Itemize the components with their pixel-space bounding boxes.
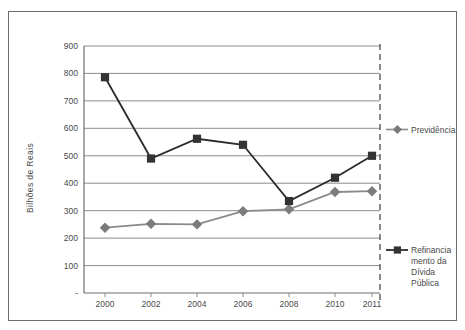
x-tick-label-2006: 2006 [234, 299, 253, 309]
legend: Previdência Refinancia mento da Dívida P… [386, 125, 456, 289]
y-tick-label-200: 200 [64, 233, 78, 243]
x-tick-label-2002: 2002 [142, 299, 161, 309]
legend-item-previdencia[interactable]: Previdência [386, 125, 456, 135]
legend-label-refinanciamento-line-1: Refinancia [411, 245, 451, 255]
legend-label-previdencia: Previdência [411, 125, 456, 135]
x-tick-label-2010: 2010 [326, 299, 345, 309]
series-markers-previdencia [100, 186, 377, 233]
y-tick-label-500: 500 [64, 151, 78, 161]
legend-marker-refinanciamento-square [394, 246, 401, 253]
y-tick-label-600: 600 [64, 123, 78, 133]
chart-plot-area: Bilhões de Reais 900 800 700 600 500 400… [0, 0, 465, 330]
x-tick-label-2004: 2004 [188, 299, 207, 309]
data-point-2002 [147, 154, 155, 162]
y-tick-label-100: 100 [64, 261, 78, 271]
data-point-2000 [100, 222, 110, 232]
data-point-2008 [285, 197, 293, 205]
data-point-2008 [284, 204, 294, 214]
data-point-2010 [331, 174, 339, 182]
series-line-refinanciamento [105, 77, 372, 201]
x-tick-label-2011: 2011 [363, 299, 382, 309]
y-tick-label-300: 300 [64, 206, 78, 216]
series-line-previdencia [105, 191, 372, 228]
y-tick-label-900: 900 [64, 41, 78, 51]
data-point-2011 [367, 186, 377, 196]
data-point-2011 [368, 152, 376, 160]
legend-marker-previdencia-diamond [393, 125, 402, 134]
y-tick-label-0: - [75, 288, 78, 298]
data-point-2004 [192, 219, 202, 229]
gridlines [84, 46, 380, 266]
series-markers-refinanciamento [101, 73, 376, 205]
y-axis-title: Bilhões de Reais [25, 143, 35, 213]
data-point-2004 [193, 135, 201, 143]
y-tick-label-800: 800 [64, 68, 78, 78]
legend-label-refinanciamento-line-3: Dívida [411, 267, 435, 277]
data-point-2000 [101, 73, 109, 81]
x-tick-label-2000: 2000 [96, 299, 115, 309]
data-point-2002 [146, 219, 156, 229]
data-point-2006 [239, 141, 247, 149]
legend-label-refinanciamento-line-2: mento da [411, 256, 447, 266]
x-tick-label-2008: 2008 [280, 299, 299, 309]
data-point-2006 [238, 206, 248, 216]
line-chart-svg: Bilhões de Reais 900 800 700 600 500 400… [0, 0, 465, 330]
y-tick-label-400: 400 [64, 178, 78, 188]
legend-label-refinanciamento-line-4: Pública [411, 278, 439, 288]
data-point-2010 [330, 187, 340, 197]
y-tick-label-700: 700 [64, 96, 78, 106]
figure-container: Bilhões de Reais 900 800 700 600 500 400… [0, 0, 465, 330]
legend-item-refinanciamento[interactable]: Refinancia mento da Dívida Pública [386, 245, 451, 288]
